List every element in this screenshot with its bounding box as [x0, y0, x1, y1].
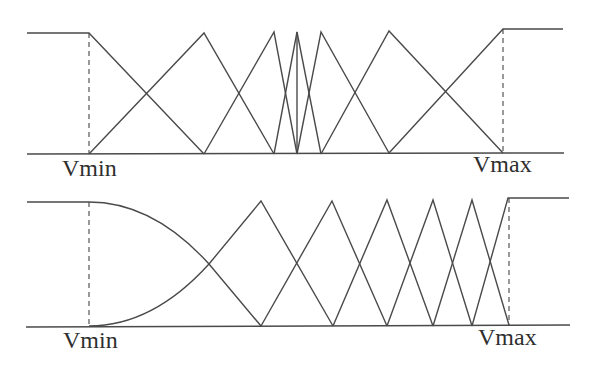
bottom-membership-lines — [26, 198, 570, 327]
top-triangle-mf-2 — [204, 32, 297, 154]
bottom-left-shoulder-curved-mf — [27, 202, 261, 326]
top-right-shoulder-mf — [389, 29, 563, 153]
bottom-vmin-label: Vmin — [63, 327, 118, 353]
bottom-right-shoulder-mf — [472, 198, 569, 326]
top-partition-diagram: Vmin Vmax — [27, 29, 564, 181]
top-membership-lines — [27, 29, 564, 154]
bottom-triangle-mf-3 — [387, 200, 472, 326]
bottom-partition-diagram: Vmin Vmax — [26, 198, 570, 353]
top-triangle-mf-4 — [297, 32, 389, 154]
bottom-vmax-label: Vmax — [478, 324, 537, 350]
top-triangle-mf-1 — [89, 33, 274, 154]
bottom-triangle-mf-2 — [333, 200, 433, 326]
membership-function-figure: Vmin Vmax Vmin Vmax — [0, 0, 589, 370]
bottom-triangle-mf-4 — [433, 200, 509, 326]
top-triangle-mf-5 — [321, 31, 503, 154]
top-vmin-label: Vmin — [62, 155, 117, 181]
top-left-shoulder-mf — [27, 33, 204, 154]
top-vmax-label: Vmax — [473, 151, 532, 177]
bottom-triangle-mf-1 — [261, 201, 387, 326]
